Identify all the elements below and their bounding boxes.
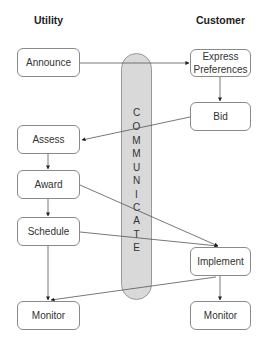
channel-letter: C bbox=[122, 202, 151, 213]
step-implement: Implement bbox=[190, 247, 251, 276]
step-announce: Announce bbox=[17, 48, 80, 77]
channel-letter: U bbox=[122, 162, 151, 173]
step-monitor-utility: Monitor bbox=[17, 301, 80, 330]
utility-column-header: Utility bbox=[34, 14, 63, 26]
customer-column-header: Customer bbox=[196, 14, 245, 26]
channel-letter: N bbox=[122, 175, 151, 186]
step-schedule: Schedule bbox=[17, 217, 80, 246]
channel-letter: E bbox=[122, 242, 151, 253]
step-award: Award bbox=[17, 170, 80, 199]
channel-letter: A bbox=[122, 215, 151, 226]
channel-letter: M bbox=[122, 135, 151, 146]
step-monitor-customer: Monitor bbox=[190, 301, 251, 330]
channel-letter: M bbox=[122, 148, 151, 159]
communicate-channel: C O M M U N I C A T E bbox=[121, 53, 152, 300]
step-bid: Bid bbox=[190, 102, 251, 131]
step-assess: Assess bbox=[17, 125, 80, 154]
channel-letter: C bbox=[122, 107, 151, 118]
channel-letter: I bbox=[122, 189, 151, 200]
channel-letter: T bbox=[122, 229, 151, 240]
channel-letter: O bbox=[122, 121, 151, 132]
step-express-preferences: Express Preferences bbox=[190, 49, 251, 77]
